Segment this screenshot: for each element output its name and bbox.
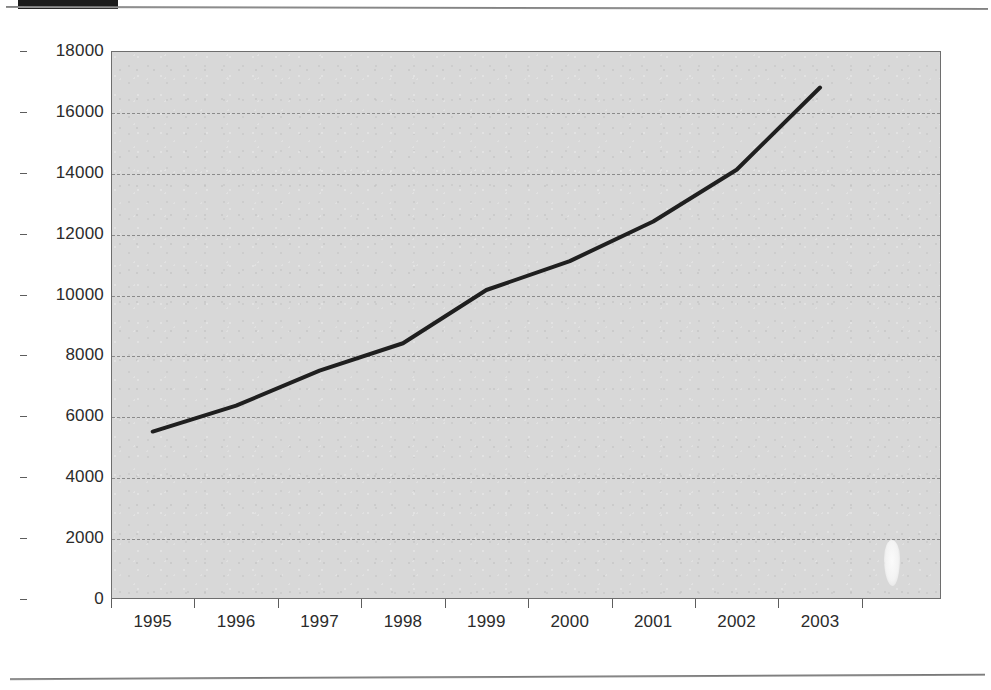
x-axis-tick-label: 2000 (524, 612, 616, 632)
y-axis-tick-label: 12000 (34, 224, 104, 244)
gridline (112, 539, 940, 540)
y-axis-tick-label: 16000 (34, 102, 104, 122)
x-axis-tick (528, 599, 529, 608)
y-axis-tick (20, 173, 27, 174)
y-axis-tick (20, 51, 27, 52)
x-axis-tick-label: 2002 (691, 612, 783, 632)
x-axis-tick (695, 599, 696, 608)
x-axis-tick (862, 599, 863, 608)
y-axis-tick (20, 599, 27, 600)
y-axis-tick (20, 538, 27, 539)
line-chart: 0200040006000800010000120001400016000180… (0, 0, 991, 690)
plot-area (111, 51, 941, 599)
x-axis-tick-label: 2001 (607, 612, 699, 632)
y-axis-tick-label: 4000 (34, 467, 104, 487)
paper-smudge (884, 540, 900, 586)
y-axis: 0200040006000800010000120001400016000180… (27, 51, 104, 599)
gridline (112, 356, 940, 357)
y-axis-tick (20, 112, 27, 113)
y-axis-tick-label: 6000 (34, 406, 104, 426)
y-axis-tick (20, 234, 27, 235)
x-axis-ticks (111, 599, 941, 609)
y-axis-tick-label: 0 (34, 589, 104, 609)
x-axis-tick (778, 599, 779, 608)
x-axis-tick-label: 1996 (190, 612, 282, 632)
gridline (112, 174, 940, 175)
y-axis-tick-label: 8000 (34, 345, 104, 365)
x-axis: 199519961997199819992000200120022003 (111, 612, 941, 638)
gridline (112, 417, 940, 418)
x-axis-tick-label: 2003 (774, 612, 866, 632)
x-axis-tick (111, 599, 112, 608)
y-axis-tick-label: 2000 (34, 528, 104, 548)
x-axis-tick (278, 599, 279, 608)
x-axis-tick (612, 599, 613, 608)
gridline (112, 113, 940, 114)
x-axis-tick (194, 599, 195, 608)
x-axis-tick-label: 1998 (357, 612, 449, 632)
y-axis-tick (20, 355, 27, 356)
paper-grain-texture (112, 52, 940, 598)
gridline (112, 235, 940, 236)
y-axis-tick (20, 416, 27, 417)
gridline (112, 478, 940, 479)
gridline (112, 296, 940, 297)
x-axis-tick-label: 1997 (274, 612, 366, 632)
x-axis-tick (361, 599, 362, 608)
y-axis-tick (20, 295, 27, 296)
x-axis-tick-label: 1999 (440, 612, 532, 632)
y-axis-tick-label: 10000 (34, 285, 104, 305)
x-axis-tick (445, 599, 446, 608)
y-axis-tick-label: 18000 (34, 41, 104, 61)
y-axis-tick-label: 14000 (34, 163, 104, 183)
x-axis-tick-label: 1995 (107, 612, 199, 632)
y-axis-tick (20, 477, 27, 478)
